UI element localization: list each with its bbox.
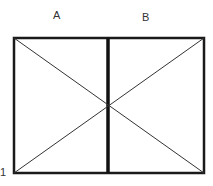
rectangle-diagram [0, 0, 213, 186]
